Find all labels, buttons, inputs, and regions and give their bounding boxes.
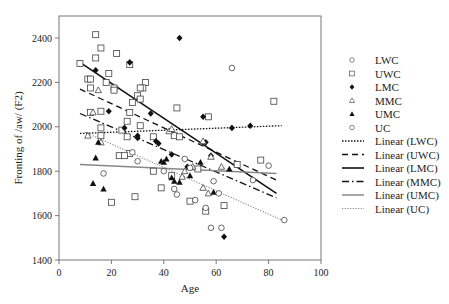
square-open-icon: [350, 71, 355, 76]
data-point: [192, 197, 198, 203]
y-tick-label: 1800: [32, 166, 52, 177]
data-point: [93, 32, 99, 38]
triangle-open-icon: [349, 98, 354, 103]
y-tick-label: 2200: [32, 77, 52, 88]
data-point: [95, 87, 101, 93]
data-point: [226, 166, 232, 172]
data-point: [203, 205, 209, 211]
scatter-chart: 140016001800200022002400 020406080100 Ag…: [0, 0, 449, 304]
x-tick-label: 60: [211, 267, 221, 278]
data-point: [132, 194, 138, 200]
data-point: [218, 163, 224, 169]
y-tick-label: 1400: [32, 255, 52, 266]
legend-label: UC: [375, 122, 390, 134]
data-point: [200, 185, 206, 191]
legend-label: LMC: [375, 81, 399, 93]
x-axis-title: Age: [181, 282, 199, 294]
data-point: [177, 35, 183, 42]
data-point: [205, 190, 211, 196]
y-axis-title: Fronting of /aw/ (F2): [12, 91, 25, 185]
data-point: [221, 233, 227, 240]
data-point: [258, 157, 264, 163]
data-point: [135, 158, 141, 164]
trend-line: [80, 113, 277, 197]
data-point: [114, 51, 120, 57]
legend-label: LWC: [375, 54, 399, 66]
x-tick-label: 100: [314, 267, 329, 278]
data-point: [171, 186, 177, 192]
data-point: [177, 134, 183, 140]
x-axis: 020406080100: [57, 260, 329, 278]
data-point: [161, 168, 167, 174]
circle-open-icon: [350, 58, 354, 62]
data-point: [98, 108, 104, 114]
data-point: [101, 171, 107, 177]
data-point: [221, 203, 227, 209]
data-point: [103, 79, 109, 85]
data-point: [93, 67, 99, 74]
trend-lines: [80, 62, 282, 220]
data-point: [129, 99, 135, 105]
x-tick-label: 80: [264, 267, 274, 278]
data-point: [229, 65, 235, 71]
data-point: [182, 156, 188, 162]
data-point: [106, 108, 112, 115]
data-point: [106, 71, 112, 77]
data-point: [174, 105, 180, 111]
data-point: [142, 79, 148, 85]
data-point: [266, 163, 272, 169]
legend-label: UWC: [375, 68, 401, 80]
y-tick-label: 2000: [32, 121, 52, 132]
circle-open-icon: [350, 125, 354, 129]
data-point: [176, 179, 182, 185]
x-tick-label: 0: [57, 267, 62, 278]
legend-label: MMC: [375, 95, 402, 107]
data-point: [90, 180, 96, 186]
data-point: [216, 191, 222, 197]
y-tick-label: 2400: [32, 33, 52, 44]
data-point: [208, 225, 214, 231]
data-point: [219, 225, 225, 231]
data-point: [187, 165, 193, 171]
diamond-filled-icon: [350, 84, 355, 89]
legend-label: Linear (UMC): [375, 189, 439, 202]
data-point: [98, 45, 104, 51]
data-point: [87, 76, 93, 82]
data-point: [247, 122, 253, 129]
data-point: [111, 87, 117, 93]
data-point: [158, 185, 164, 191]
data-point: [87, 85, 93, 91]
data-point: [77, 61, 83, 67]
data-point: [137, 96, 143, 102]
legend-label: Linear (LWC): [375, 135, 438, 148]
legend-label: Linear (MMC): [375, 176, 441, 189]
data-point: [122, 153, 128, 159]
data-point: [271, 98, 277, 104]
legend-label: UMC: [375, 108, 400, 120]
data-point: [100, 186, 106, 192]
x-tick-label: 20: [106, 267, 116, 278]
data-point: [137, 123, 143, 129]
data-point: [150, 168, 156, 174]
data-point: [211, 178, 217, 184]
data-point: [127, 109, 133, 115]
data-point: [229, 125, 235, 132]
data-point: [124, 134, 130, 140]
y-tick-label: 1600: [32, 210, 52, 221]
data-point: [282, 217, 288, 223]
data-point: [98, 133, 104, 139]
data-point: [234, 162, 240, 168]
data-point: [174, 192, 180, 198]
data-point: [108, 199, 114, 205]
legend-label: Linear (LMC): [375, 162, 438, 175]
data-point: [205, 114, 211, 120]
legend-label: Linear (UWC): [375, 149, 440, 162]
data-point: [137, 85, 143, 91]
data-point: [124, 118, 130, 124]
data-point: [197, 159, 203, 165]
data-point: [93, 55, 99, 61]
data-point: [187, 198, 193, 204]
data-point: [130, 150, 136, 156]
y-axis: 140016001800200022002400: [32, 33, 59, 266]
data-point: [250, 177, 256, 183]
